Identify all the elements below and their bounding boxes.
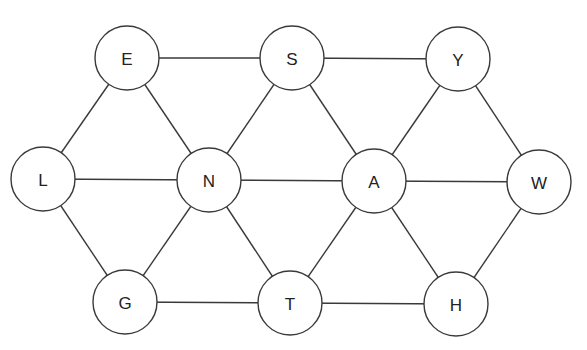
node-label: H xyxy=(450,296,462,315)
graph-svg: ESYLNAWGTH xyxy=(0,0,587,350)
node-n: N xyxy=(177,148,241,212)
node-h: H xyxy=(424,272,488,336)
edges-layer xyxy=(43,58,539,304)
node-label: G xyxy=(118,294,131,313)
node-t: T xyxy=(258,271,322,335)
node-label: L xyxy=(38,171,47,190)
node-label: Y xyxy=(452,51,463,70)
node-y: Y xyxy=(426,27,490,91)
node-e: E xyxy=(95,26,159,90)
node-label: N xyxy=(203,172,215,191)
node-l: L xyxy=(11,147,75,211)
node-s: S xyxy=(260,26,324,90)
node-label: A xyxy=(368,173,380,192)
node-w: W xyxy=(507,150,571,214)
node-label: E xyxy=(121,50,132,69)
node-label: T xyxy=(285,295,295,314)
node-g: G xyxy=(93,270,157,334)
node-a: A xyxy=(342,149,406,213)
graph-diagram: ESYLNAWGTH xyxy=(0,0,587,350)
node-label: S xyxy=(286,50,297,69)
node-label: W xyxy=(531,174,547,193)
